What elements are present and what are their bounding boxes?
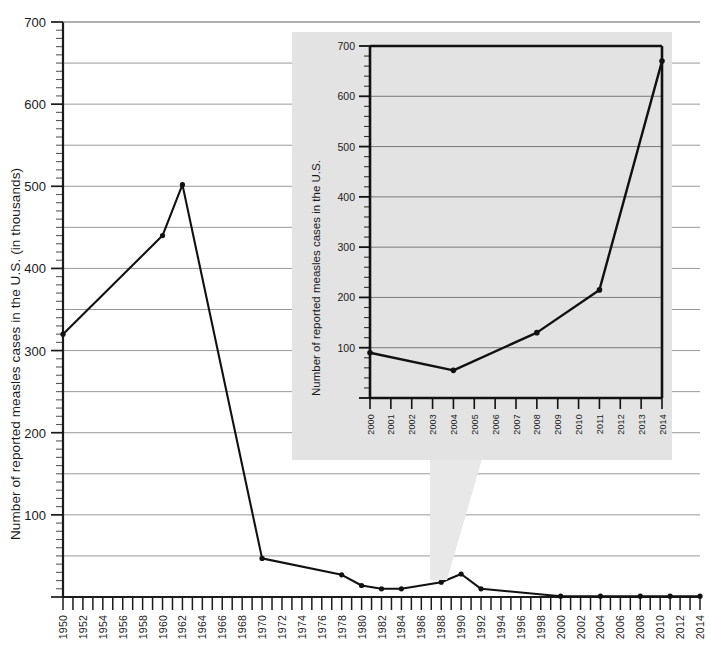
x-tick-label: 1974	[296, 615, 308, 639]
x-tick-label: 1996	[515, 615, 527, 639]
data-point	[379, 586, 384, 591]
inset-x-tick-label: 2013	[637, 414, 647, 435]
x-tick-label: 2010	[654, 615, 666, 639]
data-point	[668, 594, 673, 599]
y-tick-label: 500	[24, 179, 46, 194]
inset-x-tick-label: 2005	[470, 414, 480, 435]
inset-x-tick-label: 2011	[595, 414, 605, 434]
inset-x-tick-label: 2004	[449, 414, 459, 435]
inset-x-tick-label: 2003	[428, 414, 438, 435]
data-point	[638, 594, 643, 599]
inset-data-point	[597, 287, 603, 293]
x-tick-label: 1950	[57, 615, 69, 639]
x-tick-label: 2004	[594, 615, 606, 639]
x-tick-label: 1992	[475, 615, 487, 639]
x-tick-label: 2008	[634, 615, 646, 639]
x-tick-label: 2006	[614, 615, 626, 639]
x-tick-label: 1966	[216, 615, 228, 639]
data-point	[60, 332, 65, 337]
inset-x-tick-label: 2000	[366, 414, 376, 435]
inset-x-tick-label: 2012	[616, 414, 626, 435]
main-y-axis-ticks	[51, 22, 63, 597]
data-point	[558, 594, 563, 599]
inset-x-tick-label: 2002	[407, 414, 417, 435]
x-tick-label: 2012	[674, 615, 686, 639]
inset-x-tick-label: 2010	[574, 414, 584, 435]
x-tick-label: 1980	[356, 615, 368, 639]
inset-y-tick-label: 700	[337, 40, 355, 52]
x-tick-label: 1994	[495, 615, 507, 639]
inset-data-point	[659, 58, 665, 64]
x-tick-label: 1964	[196, 615, 208, 639]
inset-x-tick-label: 2007	[512, 414, 522, 435]
x-tick-label: 1998	[535, 615, 547, 639]
x-tick-label: 1984	[395, 615, 407, 639]
chart-canvas: 100200300400500600700 195019521954195619…	[0, 0, 711, 647]
inset-data-point	[367, 350, 373, 356]
inset-y-tick-label: 200	[337, 291, 355, 303]
inset-data-point	[451, 368, 457, 374]
data-point	[359, 583, 364, 588]
inset-x-tick-label: 2001	[386, 414, 396, 435]
x-tick-label: 1982	[376, 615, 388, 639]
data-point	[459, 571, 464, 576]
main-x-axis-tick-labels: 1950195219541956195819601962196419661968…	[57, 615, 706, 639]
x-tick-label: 1978	[336, 615, 348, 639]
data-point	[180, 182, 185, 187]
data-point	[439, 580, 444, 585]
data-point	[478, 586, 483, 591]
main-y-axis-tick-labels: 100200300400500600700	[24, 15, 46, 523]
x-tick-label: 1986	[415, 615, 427, 639]
y-tick-label: 700	[24, 15, 46, 30]
x-tick-label: 2014	[694, 615, 706, 639]
inset-x-tick-label: 2009	[553, 414, 563, 435]
x-tick-label: 1960	[157, 615, 169, 639]
data-point	[697, 594, 702, 599]
x-tick-label: 1952	[77, 615, 89, 639]
x-tick-label: 1956	[117, 615, 129, 639]
data-point	[160, 233, 165, 238]
x-tick-label: 1954	[97, 615, 109, 639]
inset-y-tick-label: 500	[337, 141, 355, 153]
inset-x-tick-label: 2006	[491, 414, 501, 435]
x-tick-label: 1962	[176, 615, 188, 639]
x-tick-label: 1972	[276, 615, 288, 639]
x-tick-label: 1968	[236, 615, 248, 639]
y-tick-label: 400	[24, 261, 46, 276]
measles-cases-chart: 100200300400500600700 195019521954195619…	[0, 0, 711, 647]
y-tick-label: 200	[24, 426, 46, 441]
data-point	[339, 572, 344, 577]
inset-y-tick-label: 300	[337, 241, 355, 253]
y-tick-label: 600	[24, 97, 46, 112]
inset-x-tick-label: 2008	[532, 414, 542, 435]
x-tick-label: 1976	[316, 615, 328, 639]
inset-y-tick-label: 400	[337, 191, 355, 203]
x-tick-label: 1990	[455, 615, 467, 639]
inset-data-point	[534, 330, 540, 336]
inset-chart: 100200300400500600700 200020012002200320…	[292, 32, 672, 460]
x-tick-label: 2000	[555, 615, 567, 639]
data-point	[598, 594, 603, 599]
inset-x-axis-tick-labels: 2000200120022003200420052006200720082009…	[366, 414, 668, 435]
inset-y-tick-label: 100	[337, 342, 355, 354]
data-point	[399, 586, 404, 591]
y-tick-label: 100	[24, 508, 46, 523]
inset-x-tick-label: 2014	[658, 414, 668, 435]
inset-y-tick-label: 600	[337, 90, 355, 102]
y-tick-label: 300	[24, 344, 46, 359]
x-tick-label: 2002	[575, 615, 587, 639]
main-y-axis-label: Number of reported measles cases in the …	[8, 168, 23, 540]
x-tick-label: 1958	[137, 615, 149, 639]
inset-y-axis-label: Number of reported measles cases in the …	[310, 160, 322, 396]
x-tick-label: 1970	[256, 615, 268, 639]
data-point	[259, 556, 264, 561]
main-x-axis-ticks	[63, 597, 700, 610]
x-tick-label: 1988	[435, 615, 447, 639]
